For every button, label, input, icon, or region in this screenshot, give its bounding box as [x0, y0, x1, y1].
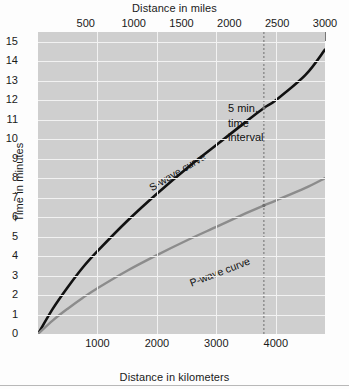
figure-root: Distance in miles Time in minutes Distan… — [0, 0, 349, 389]
x-tick-label-miles: 1500 — [169, 17, 193, 29]
y-gridline — [38, 295, 325, 296]
y-tick-label: 11 — [0, 113, 18, 125]
x-gridline — [157, 32, 158, 334]
y-tick-label: 12 — [0, 93, 18, 105]
y-gridline — [38, 178, 325, 179]
y-tick-label: 7 — [0, 191, 18, 203]
y-gridline — [38, 276, 325, 277]
x-tick-label-miles: 2000 — [217, 17, 241, 29]
x-major-tick-miles — [325, 32, 326, 41]
x-tick-label-km: 1000 — [85, 337, 109, 349]
y-tick-label: 1 — [0, 308, 18, 320]
s-wave-curve — [38, 50, 325, 334]
x-tick-label-km: 3000 — [204, 337, 228, 349]
figure-bottom-rule — [0, 385, 349, 386]
x-tick-label-miles: 3000 — [313, 17, 337, 29]
y-gridline — [38, 81, 325, 82]
y-tick-label: 15 — [0, 35, 18, 47]
y-tick-label: 5 — [0, 230, 18, 242]
x-tick-label-miles: 500 — [77, 17, 95, 29]
curves-svg — [38, 32, 325, 334]
y-gridline — [38, 217, 325, 218]
y-gridline — [38, 198, 325, 199]
x-gridline — [216, 32, 217, 334]
y-tick-label: 3 — [0, 269, 18, 281]
interval-line-1: 5 min. — [228, 101, 263, 116]
interval-line-3: interval — [228, 130, 263, 145]
x-gridline — [276, 32, 277, 334]
x-tick-label-miles: 1000 — [121, 17, 145, 29]
y-gridline — [38, 120, 325, 121]
y-tick-label: 10 — [0, 132, 18, 144]
y-gridline — [38, 315, 325, 316]
bottom-axis-title: Distance in kilometers — [0, 371, 349, 383]
y-gridline — [38, 256, 325, 257]
y-gridline — [38, 237, 325, 238]
x-gridline — [97, 32, 98, 334]
y-tick-label: 14 — [0, 54, 18, 66]
y-gridline — [38, 42, 325, 43]
y-tick-label: 6 — [0, 210, 18, 222]
plot-inner: S-wave curve P-wave curve — [38, 32, 325, 334]
interval-line-2: time — [228, 116, 263, 131]
time-interval-annotation: 5 min. time interval — [228, 101, 263, 145]
y-gridline — [38, 100, 325, 101]
y-gridline — [38, 61, 325, 62]
marker-bottom-dot — [262, 204, 265, 207]
y-tick-label: 9 — [0, 152, 18, 164]
y-tick-label: 0 — [0, 327, 18, 339]
plot-area: S-wave curve P-wave curve — [38, 32, 325, 334]
x-tick-label-km: 4000 — [264, 337, 288, 349]
y-gridline — [38, 139, 325, 140]
y-tick-label: 2 — [0, 288, 18, 300]
x-tick-label-miles: 2500 — [265, 17, 289, 29]
y-tick-label: 13 — [0, 74, 18, 86]
y-tick-label: 4 — [0, 249, 18, 261]
x-tick-label-km: 2000 — [145, 337, 169, 349]
y-tick-label: 8 — [0, 171, 18, 183]
y-gridline — [38, 159, 325, 160]
top-axis-title: Distance in miles — [0, 2, 349, 14]
